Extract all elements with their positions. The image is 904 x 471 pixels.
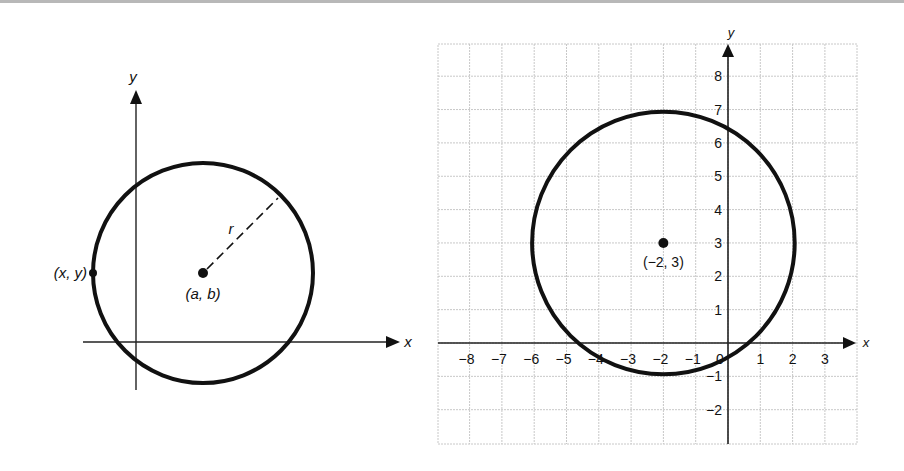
left-diagram: y x r (a, b) (x, y) [54, 68, 413, 390]
x-tick-label: −2 [652, 351, 668, 367]
left-x-arrow-icon [386, 336, 400, 348]
x-tick-label: −7 [491, 351, 507, 367]
x-tick-label: 1 [756, 351, 764, 367]
radius-line [207, 198, 278, 269]
y-tick-label: 6 [714, 135, 722, 151]
y-tick-label: 1 [714, 302, 722, 318]
x-tick-label: 2 [789, 351, 797, 367]
point-label: (x, y) [54, 264, 87, 281]
circle-point [89, 269, 97, 277]
left-x-label: x [403, 333, 412, 350]
x-tick-labels: −8−7−6−5−4−3−2−1123 [459, 351, 829, 367]
x-tick-label: −8 [459, 351, 475, 367]
x-tick-label: 3 [821, 351, 829, 367]
y-tick-label: 7 [714, 102, 722, 118]
right-x-arrow-icon [843, 337, 856, 349]
y-tick-label: −2 [706, 402, 722, 418]
x-tick-label: −6 [523, 351, 539, 367]
right-y-arrow-icon [722, 44, 734, 57]
x-tick-label: −5 [556, 351, 572, 367]
figure-canvas: y x r (a, b) (x, y) y x −8−7−6−5−4−3−2−1… [0, 0, 904, 471]
y-tick-label: 8 [714, 68, 722, 84]
y-tick-label: −1 [706, 368, 722, 384]
left-y-label: y [128, 68, 138, 85]
right-diagram: y x −8−7−6−5−4−3−2−1123 87654321−1−2 0 (… [438, 25, 870, 444]
right-center-label: (−2, 3) [643, 254, 684, 270]
right-x-label: x [862, 335, 870, 350]
x-tick-label: −3 [620, 351, 636, 367]
center-point [198, 268, 208, 278]
x-tick-label: −1 [685, 351, 701, 367]
y-tick-label: 5 [714, 168, 722, 184]
right-center-point [658, 238, 668, 248]
left-y-arrow-icon [130, 90, 142, 104]
y-tick-label: 4 [714, 202, 722, 218]
y-tick-label: 2 [714, 268, 722, 284]
y-tick-label: 3 [714, 235, 722, 251]
radius-label: r [229, 220, 235, 237]
right-y-label: y [727, 25, 736, 40]
center-label: (a, b) [185, 285, 220, 302]
